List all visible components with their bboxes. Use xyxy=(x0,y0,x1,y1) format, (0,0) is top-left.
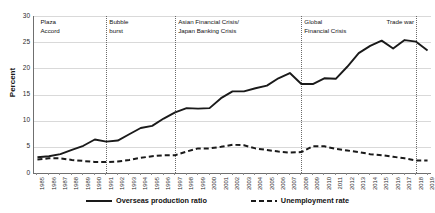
series-line xyxy=(37,40,427,157)
x-axis-tick: 2002 xyxy=(234,177,240,190)
x-axis-tick-mark xyxy=(82,173,83,175)
y-axis-tick: 20 xyxy=(8,65,30,72)
x-axis-tick-mark xyxy=(94,173,95,175)
x-axis-tick: 1997 xyxy=(177,177,183,190)
x-axis-tick-mark xyxy=(323,173,324,175)
x-axis-tick-mark xyxy=(415,173,416,175)
x-axis-tick-mark xyxy=(254,173,255,175)
x-axis-tick: 1991 xyxy=(108,177,114,190)
x-axis-tick: 1988 xyxy=(73,177,79,190)
x-axis-tick: 1993 xyxy=(131,177,137,190)
legend-label: Unemployment rate xyxy=(281,197,349,204)
x-axis-tick: 2003 xyxy=(246,177,252,190)
x-axis-tick-mark xyxy=(186,173,187,175)
x-axis-tick-mark xyxy=(369,173,370,175)
x-axis-tick: 2011 xyxy=(337,177,343,189)
x-axis-tick-mark xyxy=(140,173,141,175)
y-axis-tick: 5 xyxy=(8,143,30,150)
x-axis-tick-mark xyxy=(128,173,129,175)
x-axis-tick-mark xyxy=(151,173,152,175)
legend-item-overseas-production-ratio: Overseas production ratio xyxy=(86,197,207,204)
x-axis-tick: 2017 xyxy=(406,177,412,190)
x-axis-tick-mark xyxy=(174,173,175,175)
x-axis-tick: 2009 xyxy=(314,177,320,190)
y-axis-tick: 10 xyxy=(8,117,30,124)
x-axis-tick-mark xyxy=(243,173,244,175)
y-axis-tick: 25 xyxy=(8,39,30,46)
x-axis-tick: 2012 xyxy=(349,177,355,190)
x-axis-tick-mark xyxy=(392,173,393,175)
x-axis-tick-mark xyxy=(232,173,233,175)
series-line xyxy=(37,145,427,162)
x-axis-tick-mark xyxy=(346,173,347,175)
x-axis-tick-mark xyxy=(266,173,267,175)
x-axis-tick-mark xyxy=(163,173,164,175)
chart-legend: Overseas production ratio Unemployment r… xyxy=(0,197,435,204)
x-axis-tick: 2007 xyxy=(291,177,297,190)
legend-dashed-line-icon xyxy=(251,198,277,204)
x-axis-tick-mark xyxy=(277,173,278,175)
x-axis-tick-mark xyxy=(335,173,336,175)
x-axis-tick: 1987 xyxy=(62,177,68,190)
x-axis-tick-mark xyxy=(220,173,221,175)
y-axis-tick: 15 xyxy=(8,91,30,98)
x-axis-tick: 1994 xyxy=(142,177,148,190)
x-axis-tick-mark xyxy=(427,173,428,175)
x-axis-tick: 2014 xyxy=(372,177,378,190)
x-axis-tick: 2016 xyxy=(395,177,401,190)
x-axis-tick: 2008 xyxy=(303,177,309,190)
x-axis-tick: 1990 xyxy=(96,177,102,190)
plot-area: Plaza AccordBubble burstAsian Financial … xyxy=(33,16,431,174)
x-axis-tick: 2018 xyxy=(418,177,424,190)
x-axis-tick-mark xyxy=(71,173,72,175)
x-axis-tick: 2001 xyxy=(223,177,229,190)
x-axis-tick: 2010 xyxy=(326,177,332,190)
x-axis-tick-mark xyxy=(59,173,60,175)
x-axis-tick-mark xyxy=(117,173,118,175)
x-axis-tick-mark xyxy=(358,173,359,175)
x-axis-tick-mark xyxy=(209,173,210,175)
x-axis-tick: 1992 xyxy=(119,177,125,190)
x-axis-tick: 2015 xyxy=(383,177,389,190)
x-axis-tick: 2006 xyxy=(280,177,286,190)
x-axis-tick: 1995 xyxy=(154,177,160,190)
x-axis-tick-mark xyxy=(381,173,382,175)
legend-item-unemployment-rate: Unemployment rate xyxy=(251,197,349,204)
x-axis-tick-mark xyxy=(289,173,290,175)
x-axis-tick-mark xyxy=(404,173,405,175)
x-axis-tick: 2013 xyxy=(360,177,366,190)
series-lines xyxy=(34,16,431,173)
y-axis-tick: 0 xyxy=(8,170,30,177)
legend-solid-line-icon xyxy=(86,198,112,204)
x-axis-tick: 1999 xyxy=(200,177,206,190)
x-axis-tick: 2000 xyxy=(211,177,217,190)
x-axis-tick-mark xyxy=(105,173,106,175)
x-axis-tick-labels: 1985198619871988198919901991199219931994… xyxy=(33,173,430,199)
x-axis-tick: 2005 xyxy=(269,177,275,190)
x-axis-tick: 2019 xyxy=(429,177,435,190)
x-axis-tick-mark xyxy=(300,173,301,175)
x-axis-tick: 1989 xyxy=(85,177,91,190)
x-axis-tick: 1996 xyxy=(165,177,171,190)
x-axis-tick-mark xyxy=(36,173,37,175)
x-axis-tick: 1998 xyxy=(188,177,194,190)
legend-label: Overseas production ratio xyxy=(116,197,207,204)
x-axis-tick-mark xyxy=(197,173,198,175)
y-axis-tick: 30 xyxy=(8,13,30,20)
x-axis-tick-mark xyxy=(48,173,49,175)
y-axis-tick-labels: 051015202530 xyxy=(0,0,30,213)
x-axis-tick: 1986 xyxy=(51,177,57,190)
x-axis-tick-mark xyxy=(312,173,313,175)
x-axis-tick: 1985 xyxy=(39,177,45,190)
chart-container: Percent 051015202530 Plaza AccordBubble … xyxy=(0,0,435,213)
x-axis-tick: 2004 xyxy=(257,177,263,190)
